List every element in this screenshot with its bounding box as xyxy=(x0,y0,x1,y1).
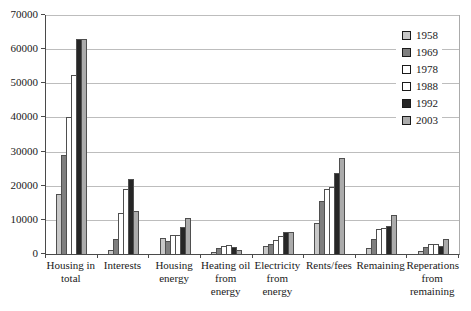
y-axis-tick-label: 40000 xyxy=(0,110,38,122)
x-axis-label: Remaining xyxy=(355,259,407,272)
x-axis-tick xyxy=(45,255,46,258)
legend-swatch-icon xyxy=(402,116,411,125)
x-axis-label: Reperationsfromremaining xyxy=(406,259,458,298)
x-axis-tick xyxy=(200,255,201,258)
bar-group xyxy=(98,15,150,254)
y-axis-tick xyxy=(41,116,45,117)
legend-label: 2003 xyxy=(416,115,438,126)
x-axis-label: Interests xyxy=(97,259,149,272)
y-axis-tick-label: 30000 xyxy=(0,145,38,157)
bar-group xyxy=(304,15,356,254)
x-axis-tick xyxy=(148,255,149,258)
bar-2003 xyxy=(133,211,139,254)
chart: 010000200003000040000500006000070000 Hou… xyxy=(0,0,471,311)
bar-2003 xyxy=(81,39,87,254)
y-axis-tick xyxy=(41,151,45,152)
bar-2003 xyxy=(236,250,242,254)
bar-2003 xyxy=(391,215,397,254)
bar-group xyxy=(201,15,253,254)
y-axis-tick xyxy=(41,82,45,83)
legend-label: 1969 xyxy=(416,47,438,58)
legend: 195819691978198819922003 xyxy=(396,25,442,131)
legend-swatch-icon xyxy=(402,65,411,74)
y-axis-tick xyxy=(41,219,45,220)
y-axis-tick-label: 50000 xyxy=(0,76,38,88)
y-axis-tick-label: 60000 xyxy=(0,42,38,54)
legend-item: 1992 xyxy=(402,95,438,112)
x-axis-label: Housingenergy xyxy=(148,259,200,285)
legend-swatch-icon xyxy=(402,99,411,108)
x-axis-tick xyxy=(303,255,304,258)
bar-2003 xyxy=(339,158,345,254)
legend-label: 1958 xyxy=(416,30,438,41)
x-axis-label: Heating oilfromenergy xyxy=(200,259,252,298)
legend-item: 1978 xyxy=(402,61,438,78)
legend-swatch-icon xyxy=(402,31,411,40)
y-axis-tick xyxy=(41,253,45,254)
legend-item: 1988 xyxy=(402,78,438,95)
y-axis-tick xyxy=(41,185,45,186)
x-axis-tick xyxy=(97,255,98,258)
legend-item: 1969 xyxy=(402,44,438,61)
legend-item: 2003 xyxy=(402,112,438,129)
y-axis-tick-label: 0 xyxy=(0,247,38,259)
y-axis-tick-label: 20000 xyxy=(0,179,38,191)
legend-swatch-icon xyxy=(402,48,411,57)
y-axis-tick xyxy=(41,14,45,15)
x-axis-tick xyxy=(252,255,253,258)
bar-group xyxy=(46,15,98,254)
x-axis-label: Rents/fees xyxy=(303,259,355,272)
bar-2003 xyxy=(443,239,449,254)
legend-item: 1958 xyxy=(402,27,438,44)
legend-label: 1978 xyxy=(416,64,438,75)
legend-label: 1988 xyxy=(416,81,438,92)
y-axis-tick xyxy=(41,48,45,49)
x-axis-label: Housing intotal xyxy=(45,259,97,285)
bar-group xyxy=(149,15,201,254)
x-axis-tick xyxy=(406,255,407,258)
legend-swatch-icon xyxy=(402,82,411,91)
x-axis-label: Electricityfromenergy xyxy=(252,259,304,298)
y-axis-tick-label: 70000 xyxy=(0,8,38,20)
bar-group xyxy=(253,15,305,254)
x-axis-tick xyxy=(355,255,356,258)
x-axis-tick xyxy=(458,255,459,258)
y-axis-tick-label: 10000 xyxy=(0,213,38,225)
bar-2003 xyxy=(185,218,191,254)
legend-label: 1992 xyxy=(416,98,438,109)
bar-2003 xyxy=(288,232,294,254)
